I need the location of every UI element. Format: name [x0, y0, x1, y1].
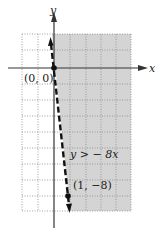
y-axis-label: y: [49, 4, 57, 17]
x-axis-arrow-icon: [138, 65, 148, 71]
inequality-graph: y x (0, 0) y > − 8x (1, −8): [0, 0, 156, 238]
origin-label: (0, 0): [24, 72, 54, 85]
point-1-neg8: [65, 193, 71, 199]
graph-figure: y x (0, 0) y > − 8x (1, −8): [0, 0, 156, 238]
x-axis-label: x: [149, 62, 156, 75]
inequality-label: y > − 8x: [69, 148, 119, 161]
point2-label: (1, −8): [73, 179, 112, 192]
point-origin: [51, 65, 57, 71]
